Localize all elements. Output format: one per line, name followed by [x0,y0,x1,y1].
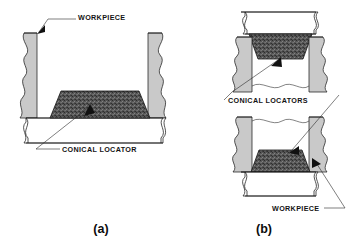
conical-locator-label-a: CONICAL LOCATOR [62,145,137,154]
panel-a-caption: (a) [93,222,108,236]
base-plate-a [24,118,166,143]
conical-locator-b-top [249,34,312,59]
workpiece-plate-b-bottom [241,172,318,196]
panel-b-caption: (b) [256,222,272,236]
figure-conical-locators: WORKPIECE CONICAL LOCATOR (a) [0,0,364,249]
conical-locator-b-bottom [251,150,310,172]
workpiece-label-b: WORKPIECE [272,204,319,213]
conical-locator-a [50,91,150,118]
conical-locators-label-b: CONICAL LOCATORS [228,96,308,105]
workpiece-plate-b-top [241,12,318,34]
workpiece-label-a: WORKPIECE [78,13,125,22]
diagram-canvas: WORKPIECE CONICAL LOCATOR (a) [0,0,364,249]
